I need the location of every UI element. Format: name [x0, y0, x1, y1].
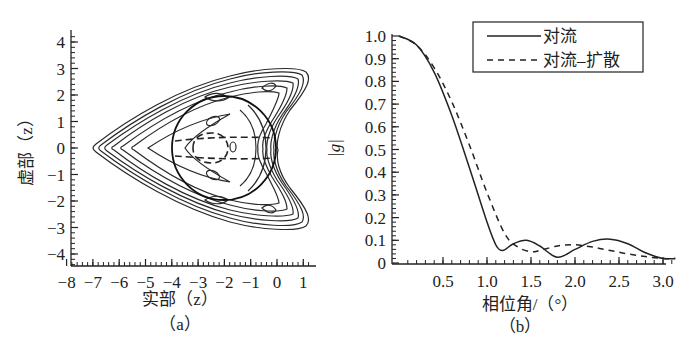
panel-a-x-tick-label: −1	[242, 273, 260, 292]
panel-a-y-tick-label: −1	[47, 166, 65, 185]
panel-b-x-tick-label: 1.0	[476, 272, 497, 291]
panel-a-x-tick-label: −2	[215, 273, 233, 292]
panel-b-y-tick-label: 1.0	[365, 27, 386, 46]
panel-b-y-axis-title: |g|	[325, 139, 344, 157]
dashed-contour	[175, 133, 276, 163]
panel-b-y-tick-label: 0.4	[365, 163, 387, 182]
panel-a-y-tick-label: −3	[47, 219, 65, 238]
panel-a-caption: （a）	[159, 315, 201, 334]
legend: 对流 对流–扩散	[473, 22, 643, 72]
legend-label-convection: 对流	[543, 27, 577, 46]
panel-b-x-tick-label: 0.5	[432, 272, 453, 291]
panel-a-y-tick-label: 2	[57, 86, 66, 105]
panel-b: 1.00.90.80.70.60.50.40.30.20.10 0.51.01.…	[325, 22, 675, 336]
panel-a-x-tick-label: −6	[110, 273, 128, 292]
panel-b-y-tick-label: 0.3	[365, 186, 386, 205]
panel-b-y-tick-label: 0.2	[365, 209, 386, 228]
panel-b-x-tick-label: 2.0	[564, 272, 585, 291]
panel-a-y-tick-label: 0	[57, 139, 66, 158]
panel-b-y-tick-label: 0.8	[365, 72, 386, 91]
panel-a: 43210−1−2−3−4 −8−7−6−5−4−3−2−101	[17, 30, 316, 334]
panel-b-y-tick-label: 0	[378, 254, 387, 273]
panel-a-y-tick-label: 3	[57, 60, 66, 79]
panel-a-x-tick-label: 1	[299, 273, 308, 292]
panel-a-y-tick-label: −2	[47, 192, 65, 211]
panel-b-x-tick-label: 3.0	[652, 272, 673, 291]
panel-a-y-tick-label: 4	[57, 33, 66, 52]
panel-b-x-tick-label: 2.5	[608, 272, 629, 291]
panel-a-x-tick-label: 0	[273, 273, 282, 292]
figure: 43210−1−2−3−4 −8−7−6−5−4−3−2−101	[0, 0, 684, 356]
panel-b-y-tick-label: 0.1	[365, 231, 386, 250]
panel-b-y-tick-label: 0.6	[365, 118, 386, 137]
panel-b-y-tick-label: 0.9	[365, 50, 386, 69]
legend-label-convection-diffusion: 对流–扩散	[543, 51, 620, 70]
panel-a-x-axis-title: 实部（z）	[142, 290, 218, 309]
panel-b-x-axis-title: 相位角/（°）	[482, 295, 579, 314]
panel-a-y-tick-label: 1	[57, 113, 66, 132]
stability-circle	[172, 96, 276, 200]
panel-b-y-tick-label: 0.7	[365, 95, 387, 114]
panel-a-x-tick-label: −7	[84, 273, 103, 292]
panel-a-y-tick-label: −4	[47, 245, 66, 264]
panel-a-y-axis-title: 虚部（z）	[17, 110, 36, 186]
panel-b-x-tick-label: 1.5	[520, 272, 541, 291]
panel-b-y-tick-label: 0.5	[365, 141, 386, 160]
panel-b-caption: （b）	[499, 317, 542, 336]
panel-a-x-tick-label: −8	[58, 273, 76, 292]
